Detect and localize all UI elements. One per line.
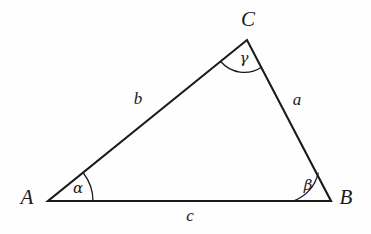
- angle-arc-alpha: [84, 174, 93, 202]
- angle-label-alpha: α: [73, 181, 83, 196]
- side-label-c: c: [186, 207, 194, 224]
- side-label-a: a: [293, 91, 302, 108]
- vertex-label-b: B: [340, 187, 353, 208]
- angle-label-beta: β: [304, 178, 313, 193]
- vertex-label-a: A: [21, 187, 34, 208]
- triangle-outline-path: [48, 40, 331, 201]
- vertex-label-c: C: [241, 9, 255, 30]
- angle-label-gamma: γ: [240, 51, 249, 66]
- triangle-drawing-canvas: [0, 0, 371, 234]
- side-label-b: b: [134, 90, 143, 107]
- triangle-figure: A B C a b c α β γ: [0, 0, 371, 234]
